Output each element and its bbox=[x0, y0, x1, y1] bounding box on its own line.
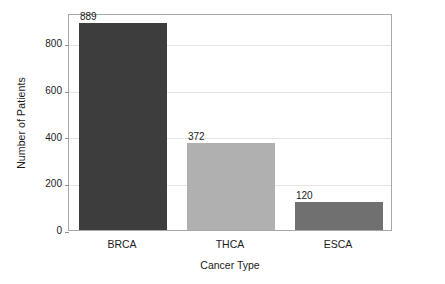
y-axis-tick-label: 0 bbox=[28, 226, 62, 236]
y-axis-tick-mark bbox=[65, 185, 69, 186]
x-axis-tick-label-esca: ESCA bbox=[284, 238, 392, 250]
y-axis-tick-label: 400 bbox=[28, 133, 62, 143]
plot-inner: 889372120 bbox=[69, 15, 391, 230]
y-axis-tick-mark bbox=[65, 45, 69, 46]
bar-value-label-esca: 120 bbox=[296, 191, 313, 201]
y-axis-tick-mark bbox=[65, 92, 69, 93]
bar-brca[interactable] bbox=[79, 23, 167, 230]
y-axis-tick-mark bbox=[65, 232, 69, 233]
x-axis-tick-label-thca: THCA bbox=[176, 238, 284, 250]
y-axis-tick-label: 600 bbox=[28, 86, 62, 96]
bar-chart: Number of Patients 0200400600800 8893721… bbox=[0, 0, 445, 284]
bar-value-label-brca: 889 bbox=[80, 12, 97, 22]
bar-thca[interactable] bbox=[187, 143, 275, 230]
x-axis-tick-label-brca: BRCA bbox=[68, 238, 176, 250]
y-axis-tick-label: 200 bbox=[28, 179, 62, 189]
bar-esca[interactable] bbox=[295, 202, 383, 230]
y-axis-tick-labels: 0200400600800 bbox=[26, 14, 62, 231]
x-axis-title: Cancer Type bbox=[68, 259, 392, 271]
plot-area: 889372120 bbox=[68, 14, 392, 231]
bar-value-label-thca: 372 bbox=[188, 132, 205, 142]
y-axis-tick-label: 800 bbox=[28, 39, 62, 49]
y-axis-tick-mark bbox=[65, 138, 69, 139]
